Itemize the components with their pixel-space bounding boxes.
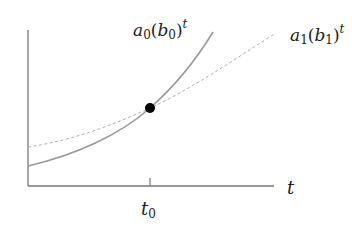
- curve-a0-b0: [28, 32, 213, 166]
- exponential-crossing-diagram: a0(b0)t a1(b1)t t t0: [0, 0, 359, 240]
- label-a1-b1: a1(b1)t: [290, 22, 345, 47]
- intersection-dot: [145, 103, 155, 113]
- x-axis-label: t: [287, 177, 295, 198]
- t0-tick-label: t0: [141, 198, 156, 221]
- curve-a1-b1: [28, 33, 276, 147]
- label-a0-b0: a0(b0)t: [133, 17, 188, 42]
